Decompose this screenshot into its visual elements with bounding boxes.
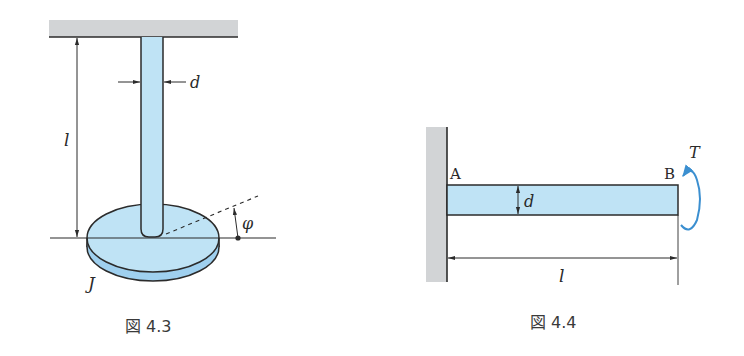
wall-support: [426, 127, 447, 282]
ceiling-support: [49, 20, 238, 37]
diameter-label: d: [190, 73, 200, 92]
rod: [141, 37, 163, 237]
angle-pivot-dot: [235, 235, 240, 240]
figure-4-3: φ l d J 図 4.3: [49, 20, 276, 336]
end-a-label: A: [449, 165, 461, 183]
figure-4-4: A B d T l 図 4.4: [426, 127, 701, 332]
torque-arrow: [681, 171, 700, 230]
shaft-length-label: l: [559, 266, 564, 286]
angle-arrow: [234, 208, 238, 238]
caption-fig-4-3: 図 4.3: [125, 317, 172, 336]
angle-label: φ: [242, 214, 254, 233]
end-b-label: B: [664, 165, 675, 183]
caption-fig-4-4: 図 4.4: [530, 313, 577, 332]
torque-label: T: [689, 143, 701, 162]
length-label: l: [64, 130, 69, 150]
shaft: [447, 185, 678, 215]
shaft-diameter-label: d: [524, 192, 534, 211]
inertia-label: J: [85, 273, 96, 293]
